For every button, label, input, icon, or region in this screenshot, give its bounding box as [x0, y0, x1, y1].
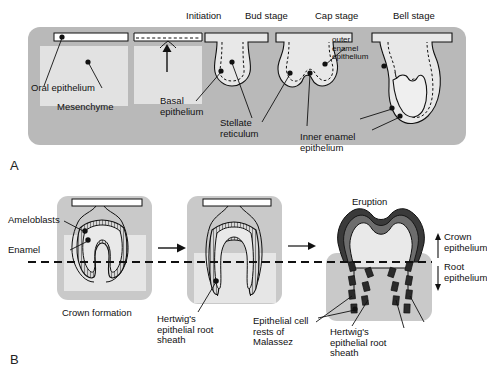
label-basal-epithelium: Basal epithelium	[160, 96, 203, 117]
stage-crown-formation-illustration	[57, 196, 152, 300]
label-hertwigs-sheath-mid: Hertwig's epithelial root sheath	[157, 314, 214, 346]
label-enamel: Enamel	[8, 245, 40, 256]
label-hertwigs-sheath-right: Hertwig's epithelial root sheath	[330, 327, 387, 359]
label-outer-enamel-epithelium: outer enamel epithelium	[332, 36, 368, 62]
label-mesenchyme: Mesenchyme	[57, 102, 114, 113]
crown-root-epithelium-arrows	[435, 233, 441, 291]
stage-eruption-illustration	[326, 209, 432, 321]
label-crown-formation: Crown formation	[62, 308, 132, 319]
stage-title-initiation: Initiation	[186, 10, 221, 21]
stage-title-bud: Bud stage	[245, 10, 288, 21]
stage-title-eruption: Eruption	[352, 196, 387, 207]
stage-title-cap: Cap stage	[315, 10, 358, 21]
label-epithelial-cell-rests-of-malassez: Epithelial cell rests of Malassez	[253, 316, 308, 348]
panel-letter-a: A	[10, 158, 19, 173]
label-inner-enamel-epithelium: Inner enamel epithelium	[300, 132, 355, 153]
panel-letter-b: B	[10, 352, 19, 367]
stage-title-bell: Bell stage	[393, 10, 435, 21]
label-root-epithelium: Root epithelium	[444, 262, 487, 283]
label-stellate-reticulum: Stellate reticulum	[220, 118, 259, 139]
label-oral-epithelium: Oral epithelium	[31, 83, 95, 94]
label-ameloblasts: Ameloblasts	[8, 215, 60, 226]
stage-root-formation-illustration	[187, 196, 282, 304]
label-crown-epithelium: Crown epithelium	[444, 232, 487, 253]
